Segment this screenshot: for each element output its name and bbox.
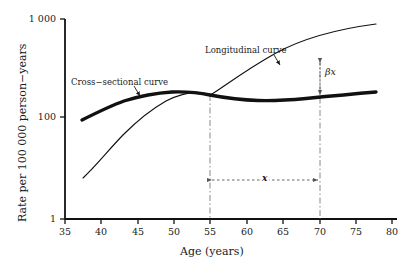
x-tick-label-60: 60: [235, 226, 259, 237]
y-tick-label-1: 1: [16, 213, 56, 224]
x-axis-title: Age (years): [180, 245, 244, 258]
x-tick-label-70: 70: [308, 226, 332, 237]
chart-figure: Rate per 100 000 person−years Age (years…: [0, 0, 413, 267]
cross-sectional-curve: [82, 92, 376, 120]
x-tick-label-40: 40: [89, 226, 113, 237]
longitudinal-curve-label: Longitudinal curve: [205, 45, 287, 55]
x-tick-label-55: 55: [198, 226, 222, 237]
beta-x-label: βx: [325, 66, 336, 77]
x-tick-label-35: 35: [53, 226, 77, 237]
y-axis-title: Rate per 100 000 person−years: [16, 44, 29, 222]
cross-sectional-curve-label: Cross−sectional curve: [71, 77, 168, 87]
y-tick-label-1000: 1 000: [16, 13, 56, 24]
cross-sectional-leader-arrow: [134, 86, 140, 96]
y-tick-label-100: 100: [16, 111, 56, 122]
x-span-label: x: [260, 173, 269, 183]
x-tick-label-50: 50: [162, 226, 186, 237]
x-tick-label-80: 80: [380, 226, 404, 237]
longitudinal-leader-arrow: [274, 55, 280, 65]
x-tick-label-65: 65: [271, 226, 295, 237]
x-tick-label-75: 75: [344, 226, 368, 237]
x-tick-label-45: 45: [126, 226, 150, 237]
annotation-arrows: [134, 55, 280, 96]
